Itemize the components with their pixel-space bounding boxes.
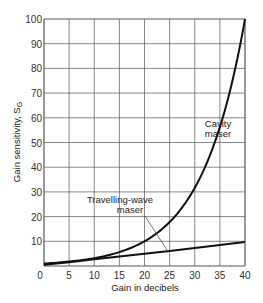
origin-label: 0: [37, 270, 43, 281]
y-tick-label: 100: [25, 14, 42, 25]
x-tick-label: 15: [114, 270, 126, 281]
y-tick-label: 20: [31, 212, 43, 223]
x-tick-label: 30: [189, 270, 201, 281]
y-tick-label: 50: [31, 138, 43, 149]
x-tick-label: 5: [66, 270, 72, 281]
y-tick-label: 30: [31, 187, 43, 198]
y-tick-label: 10: [31, 236, 43, 247]
x-tick-label: 25: [164, 270, 176, 281]
x-tick-label: 40: [239, 270, 251, 281]
y-tick-label: 40: [31, 162, 43, 173]
y-tick-label: 90: [31, 39, 43, 50]
y-tick-label: 80: [31, 63, 43, 74]
y-axis-label: Gain sensitivity, SG: [11, 102, 23, 182]
chart: 5101520253035401020304050607080901000 Ca…: [0, 0, 263, 303]
x-tick-label: 10: [89, 270, 101, 281]
travelling-wave-maser-label: Travelling-wavemaser: [87, 194, 153, 215]
x-tick-label: 20: [139, 270, 151, 281]
cavity-maser-label: Cavitymaser: [205, 118, 232, 139]
x-axis-label: Gain in decibels: [111, 282, 179, 293]
leader-line: [145, 216, 167, 250]
x-tick-label: 35: [214, 270, 226, 281]
y-tick-label: 60: [31, 113, 43, 124]
y-tick-label: 70: [31, 88, 43, 99]
